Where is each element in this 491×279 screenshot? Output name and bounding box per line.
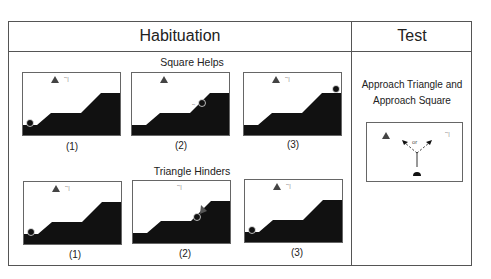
ball-icon xyxy=(28,229,35,236)
svg-text:ˇ'|: ˇ'| xyxy=(64,76,69,82)
choice-diagram: ˇ'| or xyxy=(367,123,464,183)
test-frame: ˇ'| or xyxy=(366,122,463,182)
test-description: Approach Triangle and Approach Square xyxy=(352,77,472,109)
hinders-frame-1: ˇ'| xyxy=(23,181,122,245)
triangle-icon xyxy=(52,185,60,192)
ball-icon xyxy=(249,227,256,234)
caption-3: (3) xyxy=(277,247,317,258)
svg-text:ˇ'|: ˇ'| xyxy=(285,76,290,82)
habituation-title: Habituation xyxy=(9,27,351,45)
svg-text:ˇ'|: ˇ'| xyxy=(286,183,291,189)
hill-scene: ˇ'| xyxy=(23,73,121,136)
triangle-icon xyxy=(51,76,59,83)
hill-scene: ˇ'| xyxy=(133,181,231,244)
ball-icon xyxy=(194,214,201,221)
triangle-icon xyxy=(273,183,281,190)
ball-icon xyxy=(413,172,421,176)
helps-frame-1: ˇ'| xyxy=(22,72,121,136)
test-line-2: Approach Square xyxy=(352,93,472,109)
hinders-frame-3: ˇ'| xyxy=(244,179,343,243)
header-divider xyxy=(9,51,471,52)
svg-text:ˇ'|: ˇ'| xyxy=(445,131,450,137)
hinders-frame-2: ˇ'| xyxy=(132,180,231,244)
helps-frame-3: ˇ'| xyxy=(243,72,342,136)
test-title: Test xyxy=(351,27,473,45)
ball-icon xyxy=(333,86,340,93)
svg-text:ˇ': ˇ' xyxy=(192,103,195,109)
column-divider xyxy=(351,22,352,265)
square-helps-title: Square Helps xyxy=(132,56,252,68)
caption-1: (1) xyxy=(55,249,95,260)
triangle-icon xyxy=(160,76,168,83)
triangle-icon xyxy=(272,76,280,83)
caption-2: (2) xyxy=(165,248,205,259)
helps-frame-2: ˇ' xyxy=(131,72,230,136)
caption-1: (1) xyxy=(52,141,92,152)
triangle-hinders-title: Triangle Hinders xyxy=(132,165,252,177)
caption-3: (3) xyxy=(273,139,313,150)
triangle-icon xyxy=(382,132,390,139)
test-line-1: Approach Triangle and xyxy=(352,77,472,93)
hill-scene: ˇ' xyxy=(132,73,230,136)
hill-scene: ˇ'| xyxy=(245,180,343,243)
ball-icon xyxy=(199,100,206,107)
svg-text:ˇ'|: ˇ'| xyxy=(177,184,182,190)
caption-2: (2) xyxy=(161,140,201,151)
svg-text:ˇ'|: ˇ'| xyxy=(65,185,70,191)
or-label: or xyxy=(412,139,417,145)
ball-icon xyxy=(27,120,34,127)
hill-scene: ˇ'| xyxy=(244,73,342,136)
hill-scene: ˇ'| xyxy=(24,182,122,245)
